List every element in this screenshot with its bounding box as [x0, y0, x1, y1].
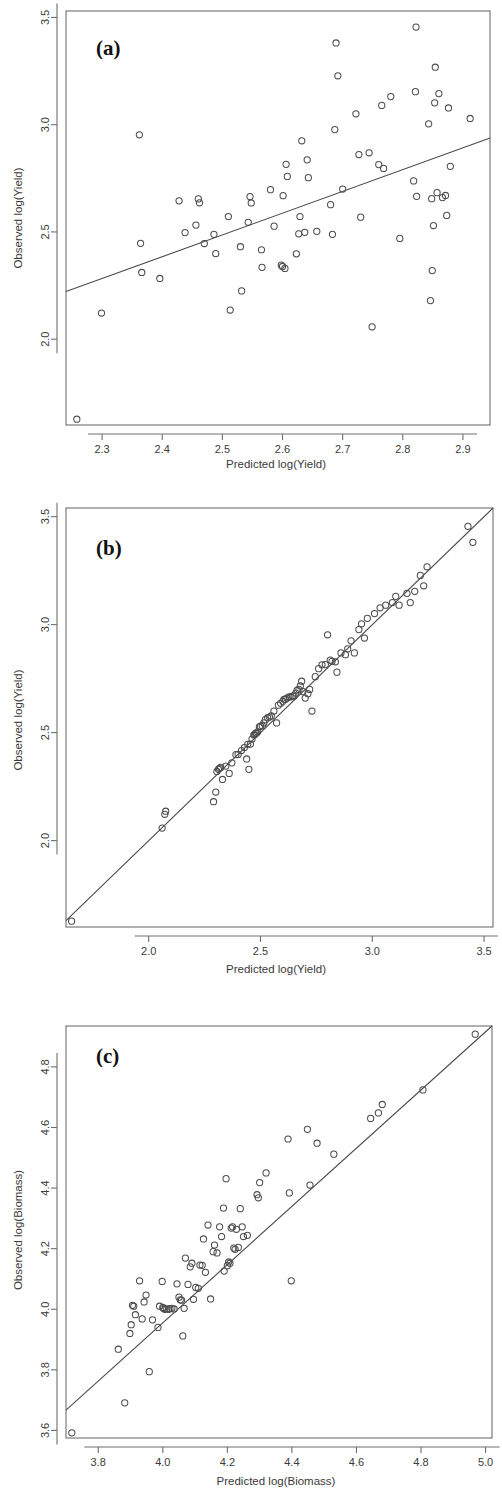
data-point	[472, 1031, 478, 1037]
x-tick-label-a: 2.6	[275, 443, 290, 455]
data-point	[427, 297, 433, 303]
data-point	[211, 231, 217, 237]
y-tick-label-a: 3.0	[39, 117, 51, 132]
data-point	[375, 1110, 381, 1116]
data-point	[334, 669, 340, 675]
data-point	[244, 756, 250, 762]
x-tick-label-a: 2.7	[335, 443, 350, 455]
data-point	[143, 1292, 149, 1298]
plot-frame-a	[66, 11, 490, 425]
data-point	[280, 193, 286, 199]
data-point	[220, 1205, 226, 1211]
y-tick-label-c: 4.6	[39, 1120, 51, 1135]
data-point	[426, 121, 432, 127]
data-point	[447, 163, 453, 169]
data-point	[237, 244, 243, 250]
panel-c-letter: (c)	[96, 1044, 119, 1068]
data-point	[205, 1222, 211, 1228]
panel-b-letter: (b)	[96, 536, 122, 560]
x-tick-label-b: 2.0	[141, 945, 156, 957]
x-tick-label-c: 5.0	[478, 1456, 493, 1468]
data-point	[211, 1242, 217, 1248]
data-point	[424, 564, 430, 570]
panel-b-xaxis-title: Predicted log(Yield)	[226, 963, 326, 975]
data-point	[122, 1400, 128, 1406]
data-point	[136, 132, 142, 138]
data-points-a	[74, 24, 474, 422]
data-point	[436, 90, 442, 96]
fit-line-a	[66, 138, 490, 292]
panel-c: 3.84.04.24.44.64.85.03.63.84.04.24.44.64…	[0, 995, 502, 1502]
data-point	[467, 115, 473, 121]
data-point	[271, 223, 277, 229]
data-point	[263, 1170, 269, 1176]
data-point	[366, 150, 372, 156]
data-point	[383, 602, 389, 608]
data-point	[297, 213, 303, 219]
figure-observed-vs-predicted: 2.32.42.52.62.72.82.92.02.53.03.5 (a) Pr…	[0, 0, 502, 1502]
data-point	[137, 240, 143, 246]
data-point	[353, 111, 359, 117]
data-point	[364, 615, 370, 621]
y-tick-label-b: 3.5	[39, 509, 51, 524]
y-tick-label-c: 4.2	[39, 1241, 51, 1256]
data-point	[314, 1140, 320, 1146]
data-point	[379, 102, 385, 108]
data-point	[312, 674, 318, 680]
data-point	[159, 1278, 165, 1284]
x-tick-label-a: 2.4	[155, 443, 170, 455]
data-point	[247, 193, 253, 199]
y-tick-label-b: 2.5	[39, 725, 51, 740]
x-tick-label-a: 2.9	[455, 443, 470, 455]
data-point	[309, 708, 315, 714]
y-tick-label-a: 2.5	[39, 224, 51, 239]
data-point	[189, 1260, 195, 1266]
data-point	[361, 635, 367, 641]
data-point	[333, 40, 339, 46]
panel-c-yaxis-title: Observed log(Biomass)	[12, 1170, 24, 1290]
data-point	[149, 1317, 155, 1323]
data-point	[380, 165, 386, 171]
data-point	[176, 198, 182, 204]
data-point	[195, 196, 201, 202]
data-point	[299, 138, 305, 144]
data-point	[328, 202, 334, 208]
data-point	[202, 1269, 208, 1275]
data-point	[286, 1190, 292, 1196]
data-point	[257, 1180, 263, 1186]
data-point	[393, 593, 399, 599]
data-point	[226, 770, 232, 776]
data-point	[136, 1278, 142, 1284]
data-point	[181, 1305, 187, 1311]
data-point	[193, 222, 199, 228]
panel-c-xaxis-title: Predicted log(Biomass)	[217, 1475, 336, 1487]
data-point	[413, 24, 419, 30]
panel-a-yaxis-title: Observed log(Yield)	[12, 167, 24, 268]
data-point	[213, 251, 219, 257]
data-point	[223, 1176, 229, 1182]
data-point	[388, 93, 394, 99]
data-point	[465, 523, 471, 529]
data-point	[219, 776, 225, 782]
data-point	[304, 1126, 310, 1132]
data-point	[185, 1281, 191, 1287]
data-point	[127, 1330, 133, 1336]
data-point	[245, 219, 251, 225]
data-point	[190, 1296, 196, 1302]
data-point	[371, 611, 377, 617]
x-tick-label-b: 3.0	[365, 945, 380, 957]
x-tick-label-c: 3.8	[91, 1456, 106, 1468]
data-point	[302, 229, 308, 235]
data-point	[283, 161, 289, 167]
data-point	[351, 650, 357, 656]
data-point	[412, 588, 418, 594]
x-tick-label-c: 4.0	[155, 1456, 170, 1468]
data-point	[368, 1115, 374, 1121]
data-point	[369, 324, 375, 330]
fit-line-b	[66, 508, 493, 921]
y-tick-label-c: 4.0	[39, 1302, 51, 1317]
data-point	[74, 416, 80, 422]
data-point	[258, 247, 264, 253]
data-point	[432, 100, 438, 106]
data-point	[174, 1281, 180, 1287]
